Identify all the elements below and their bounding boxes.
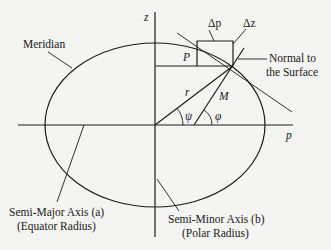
semi-minor-label-line1: Semi-Minor Axis (b): [168, 213, 265, 226]
delta-z-leader: [233, 29, 246, 44]
r-label: r: [185, 86, 190, 98]
psi-label: ψ: [185, 110, 193, 123]
phi-angle-arc: [204, 110, 212, 125]
ellipsoid-diagram: z p Meridian Normal to the Surface Δp Δz…: [0, 0, 331, 250]
M-label: M: [218, 90, 230, 102]
delta-box: [197, 41, 233, 66]
semi-major-leader: [57, 125, 84, 202]
delta-p-leader: [209, 30, 214, 41]
semi-minor-label-line2: (Polar Radius): [182, 227, 249, 240]
meridian-label: Meridian: [23, 38, 65, 50]
semi-major-label-line1: Semi-Major Axis (a): [9, 206, 104, 219]
delta-p-label: Δp: [208, 17, 221, 30]
delta-z-label: Δz: [243, 17, 256, 29]
semi-major-label-line2: (Equator Radius): [17, 220, 96, 233]
meridian-leader: [48, 52, 72, 68]
z-axis-label: z: [143, 11, 149, 23]
p-axis-label: p: [285, 129, 292, 142]
phi-label: φ: [215, 110, 222, 123]
normal-label-line2: the Surface: [266, 66, 318, 78]
psi-angle-arc: [177, 108, 183, 125]
normal-label-line1: Normal to: [269, 52, 316, 64]
P-label: P: [182, 51, 190, 63]
